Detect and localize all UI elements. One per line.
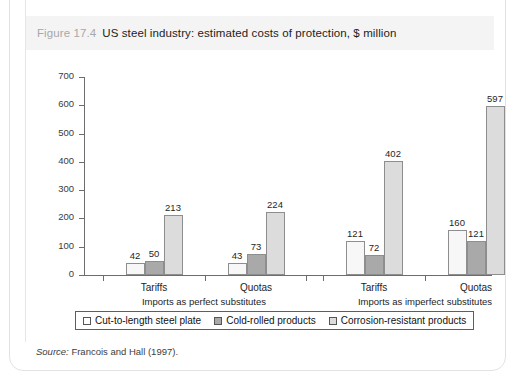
- y-axis-tick-label: 600: [58, 98, 74, 109]
- bar: [486, 106, 505, 275]
- x-axis-separator-tick: [205, 275, 206, 281]
- source-text: Francois and Hall (1997).: [71, 346, 178, 357]
- legend-swatch-icon: [214, 317, 222, 325]
- y-axis-tick-label: 100: [58, 240, 74, 251]
- bar-value-label: 402: [385, 148, 401, 159]
- bar: [164, 215, 183, 275]
- x-axis-category-label: Quotas: [460, 282, 492, 293]
- y-axis-tick-label: 500: [58, 127, 74, 138]
- figure-source: Source: Francois and Hall (1997).: [36, 346, 178, 357]
- bar-value-label: 50: [149, 248, 160, 259]
- bar-value-label: 224: [267, 199, 283, 210]
- chart-area: 0100200300400500600700 42431211605073721…: [26, 56, 494, 336]
- legend-label: Cold-rolled products: [226, 315, 316, 326]
- x-axis-separator-tick: [425, 275, 426, 281]
- bar: [145, 261, 164, 275]
- bar: [384, 161, 403, 275]
- figure-title: US steel industry: estimated costs of pr…: [102, 27, 396, 39]
- bar: [126, 263, 145, 275]
- bar-value-label: 121: [347, 228, 363, 239]
- x-axis-category-label: Tariffs: [141, 282, 168, 293]
- x-axis-separator-tick: [103, 275, 104, 281]
- y-axis-tick-mark: [79, 275, 84, 276]
- legend-label: Corrosion-resistant products: [341, 315, 467, 326]
- bar: [346, 241, 365, 275]
- legend-label: Cut-to-length steel plate: [95, 315, 201, 326]
- y-axis-tick-label: 0: [69, 268, 74, 279]
- y-axis-tick-label: 200: [58, 211, 74, 222]
- bar-value-label: 121: [468, 228, 484, 239]
- y-axis-tick-label: 400: [58, 155, 74, 166]
- bar: [365, 255, 384, 275]
- figure-number: Figure 17.4: [37, 27, 96, 39]
- x-axis-category-label: Tariffs: [361, 282, 388, 293]
- x-axis-separator-tick: [323, 275, 324, 281]
- figure-title-bar: Figure 17.4 US steel industry: estimated…: [26, 16, 494, 50]
- bar-value-label: 213: [165, 202, 181, 213]
- bar: [467, 241, 486, 275]
- bar-value-label: 43: [232, 250, 243, 261]
- bar-value-label: 160: [449, 217, 465, 228]
- bar-value-label: 72: [369, 242, 380, 253]
- source-keyword: Source:: [36, 346, 69, 357]
- legend-item: Cold-rolled products: [214, 315, 316, 326]
- legend-item: Cut-to-length steel plate: [83, 315, 201, 326]
- x-axis-group-label: Imports as imperfect substitutes: [358, 296, 492, 307]
- bar: [448, 230, 467, 275]
- legend-item: Corrosion-resistant products: [329, 315, 467, 326]
- x-axis-separator-tick: [306, 275, 307, 281]
- page-shell: Figure 17.4 US steel industry: estimated…: [0, 0, 521, 390]
- legend-swatch-icon: [83, 317, 91, 325]
- bar-value-label: 597: [487, 93, 503, 104]
- y-axis-tick-label: 300: [58, 183, 74, 194]
- y-axis-tick-label: 700: [58, 70, 74, 81]
- x-axis-group-label: Imports as perfect substitutes: [142, 296, 266, 307]
- x-axis-category-label: Quotas: [240, 282, 272, 293]
- legend-swatch-icon: [329, 317, 337, 325]
- chart-legend: Cut-to-length steel plateCold-rolled pro…: [75, 311, 474, 330]
- bar: [228, 263, 247, 275]
- bar: [247, 254, 266, 275]
- bar-value-label: 73: [251, 241, 262, 252]
- bar: [266, 212, 285, 275]
- bar-value-label: 42: [130, 250, 141, 261]
- plot-bars: 4243121160507372121213224402597: [84, 77, 491, 275]
- x-axis-line: [84, 275, 492, 276]
